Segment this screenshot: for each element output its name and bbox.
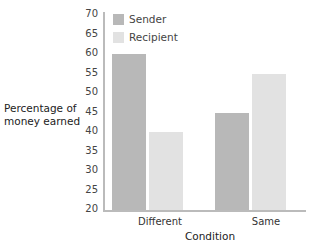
x-axis-label: Condition [170, 230, 250, 242]
legend-swatch-recipient [113, 32, 124, 43]
legend-swatch-sender [113, 14, 124, 25]
bar-recipient-same [252, 74, 286, 211]
bar-sender-different [112, 54, 146, 210]
legend-label-recipient: Recipient [129, 31, 178, 43]
legend: Sender Recipient [113, 10, 178, 46]
y-tick-20: 20 [78, 203, 98, 214]
y-axis-line [103, 12, 105, 212]
bar-recipient-different [149, 132, 183, 210]
legend-item-recipient: Recipient [113, 28, 178, 46]
y-tick-25: 25 [78, 184, 98, 195]
y-tick-60: 60 [78, 47, 98, 58]
y-tick-50: 50 [78, 86, 98, 97]
y-tick-40: 40 [78, 125, 98, 136]
y-tick-45: 45 [78, 106, 98, 117]
x-category-same: Same [226, 216, 306, 227]
x-axis-line [103, 210, 306, 212]
y-axis-label: Percentage of money earned [4, 102, 80, 128]
y-axis-label-line-1: Percentage of [4, 102, 80, 115]
y-tick-70: 70 [78, 8, 98, 19]
bar-sender-same [215, 113, 249, 211]
y-tick-65: 65 [78, 28, 98, 39]
y-tick-35: 35 [78, 145, 98, 156]
legend-item-sender: Sender [113, 10, 178, 28]
y-tick-30: 30 [78, 164, 98, 175]
y-axis-label-line-2: money earned [4, 115, 80, 128]
y-tick-55: 55 [78, 67, 98, 78]
x-category-different: Different [120, 216, 200, 227]
legend-label-sender: Sender [129, 13, 166, 25]
